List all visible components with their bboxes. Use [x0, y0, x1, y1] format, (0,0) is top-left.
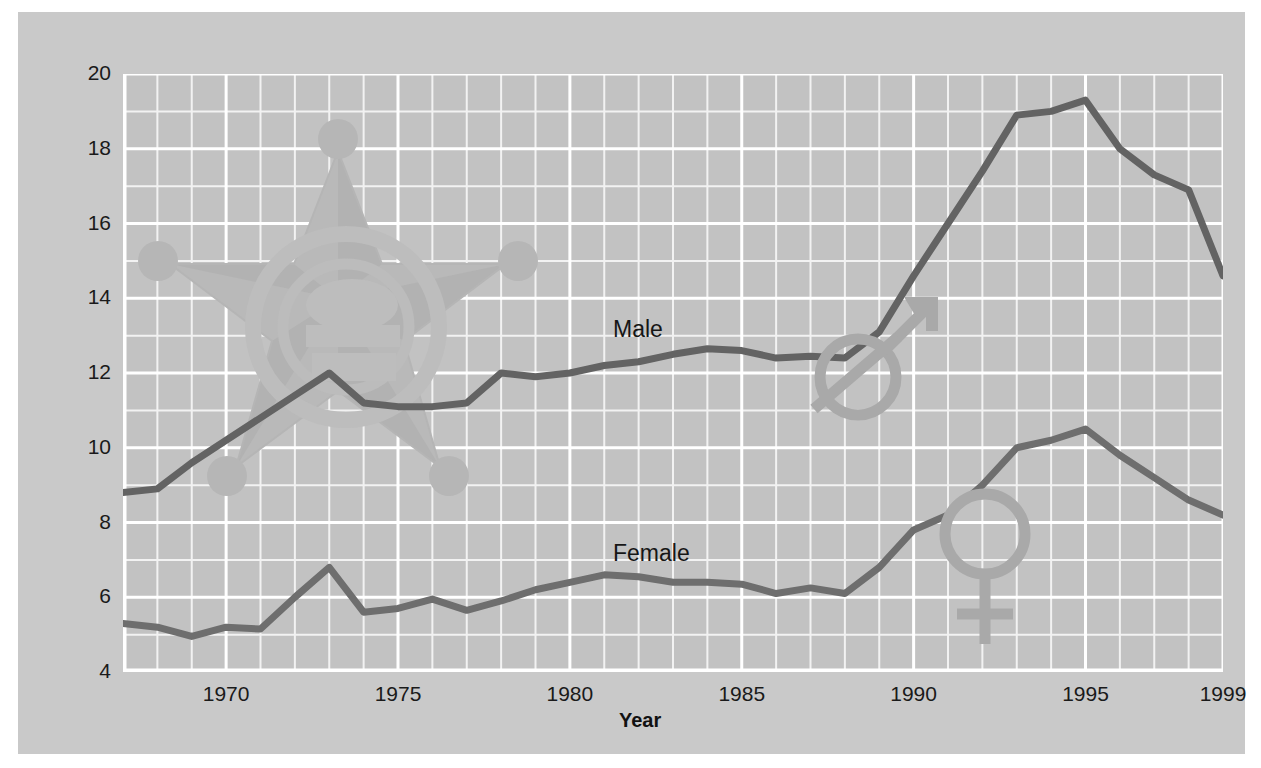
female-series-label: Female	[613, 540, 690, 567]
y-tick-8: 8	[71, 510, 111, 534]
x-tick-1985: 1985	[697, 682, 787, 706]
y-tick-12: 12	[71, 360, 111, 384]
x-tick-1980: 1980	[525, 682, 615, 706]
y-tick-10: 10	[71, 435, 111, 459]
male-gender-symbol-watermark	[814, 297, 938, 415]
female-gender-symbol-watermark	[945, 494, 1025, 644]
x-tick-1999: 1999	[1178, 682, 1261, 706]
plot-area	[123, 74, 1223, 672]
y-tick-6: 6	[71, 584, 111, 608]
x-tick-1975: 1975	[353, 682, 443, 706]
y-tick-16: 16	[71, 211, 111, 235]
x-tick-1990: 1990	[869, 682, 959, 706]
y-tick-20: 20	[71, 61, 111, 85]
male-series-label: Male	[613, 316, 663, 343]
y-tick-18: 18	[71, 136, 111, 160]
plot-svg	[123, 74, 1223, 672]
y-tick-4: 4	[71, 659, 111, 683]
x-axis-title: Year	[619, 709, 661, 732]
x-tick-1995: 1995	[1041, 682, 1131, 706]
x-tick-1970: 1970	[181, 682, 271, 706]
sheriff-star-badge-watermark	[138, 119, 538, 496]
chart-page: 468101214161820 197019751980198519901995…	[0, 0, 1261, 768]
figure-panel: 468101214161820 197019751980198519901995…	[18, 12, 1245, 754]
y-tick-14: 14	[71, 285, 111, 309]
